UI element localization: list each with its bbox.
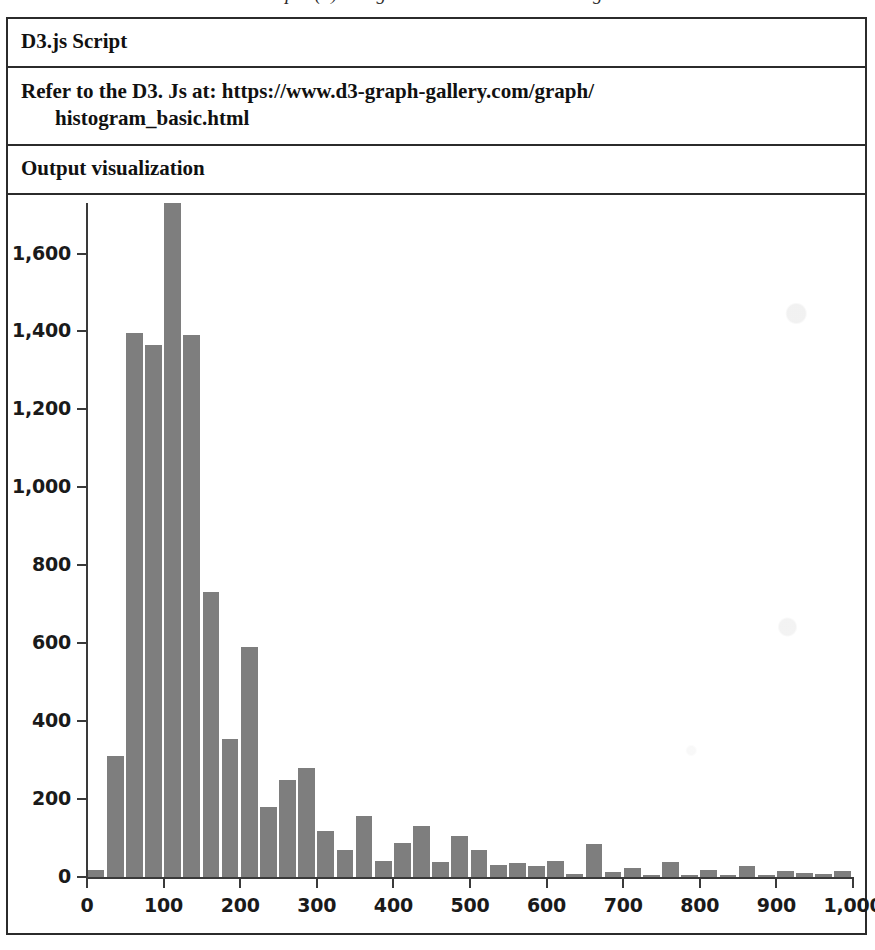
x-axis-label: 100	[144, 893, 183, 918]
histogram-chart: 02004006008001,0001,2001,4001,6000100200…	[8, 195, 865, 933]
output-heading-cell: Output visualization	[8, 146, 865, 193]
y-axis-tick	[77, 798, 86, 800]
script-title-cell: D3.js Script	[8, 19, 865, 66]
x-axis-tick	[699, 879, 701, 888]
histogram-bar	[432, 862, 449, 877]
histogram-bar	[241, 647, 258, 877]
x-axis-tick	[852, 879, 854, 888]
y-axis-label: 1,200	[12, 397, 71, 422]
x-axis-tick	[86, 879, 88, 888]
histogram-bar	[145, 345, 162, 877]
y-axis-line	[86, 203, 88, 877]
histogram-bar	[739, 866, 756, 877]
histogram-bar	[758, 875, 775, 877]
x-axis-tick	[163, 879, 165, 888]
histogram-bar	[490, 865, 507, 877]
x-axis-label: 300	[297, 893, 336, 918]
x-axis-label: 700	[604, 893, 643, 918]
x-axis-label: 200	[221, 893, 260, 918]
histogram-bar	[126, 333, 143, 876]
y-axis-label: 0	[58, 864, 71, 889]
x-axis-label: 0	[80, 893, 93, 918]
reference-url-cell: Refer to the D3. Js at: https://www.d3-g…	[8, 68, 865, 144]
histogram-bar	[183, 335, 200, 877]
reference-url-continued: histogram_basic.html	[21, 105, 852, 133]
table-row: Output visualization	[8, 146, 865, 195]
y-axis-tick	[77, 253, 86, 255]
histogram-bar	[796, 873, 813, 877]
histogram-bar	[605, 872, 622, 877]
histogram-bar	[471, 850, 488, 876]
histogram-bar	[528, 866, 545, 877]
x-axis-tick	[469, 879, 471, 888]
histogram-bar	[624, 868, 641, 877]
table-row: Refer to the D3. Js at: https://www.d3-g…	[8, 68, 865, 146]
histogram-bar	[298, 768, 315, 877]
y-axis-label: 400	[32, 708, 71, 733]
histogram-bar	[509, 863, 526, 877]
x-axis-tick	[239, 879, 241, 888]
y-axis-tick	[77, 876, 86, 878]
y-axis-tick	[77, 642, 86, 644]
y-axis-label: 800	[32, 553, 71, 578]
y-axis-label: 200	[32, 786, 71, 811]
histogram-bar	[356, 816, 373, 876]
x-axis-label: 900	[757, 893, 796, 918]
histogram-bar	[107, 756, 124, 877]
x-axis-label: 400	[374, 893, 413, 918]
histogram-bar	[88, 870, 105, 877]
histogram-bar	[720, 875, 737, 877]
histogram-bar	[222, 739, 239, 877]
histogram-bar	[681, 875, 698, 877]
histogram-bar	[279, 780, 296, 877]
y-axis-tick	[77, 330, 86, 332]
histogram-bar	[413, 826, 430, 877]
histogram-bar	[566, 874, 583, 877]
cut-off-caption-text: Example (a) using the D3 Js to build a h…	[0, 0, 875, 5]
y-axis-label: 600	[32, 631, 71, 656]
x-axis-tick	[775, 879, 777, 888]
histogram-bar	[834, 871, 851, 877]
histogram-bar	[700, 870, 717, 877]
x-axis-label: 800	[680, 893, 719, 918]
table-row-chart: 02004006008001,0001,2001,4001,6000100200…	[8, 195, 865, 933]
cut-off-caption: Example (a) using the D3 Js to build a h…	[0, 0, 875, 15]
x-axis-label: 600	[527, 893, 566, 918]
histogram-bar	[777, 871, 794, 877]
output-visualization-cell: 02004006008001,0001,2001,4001,6000100200…	[8, 195, 865, 933]
histogram-bar	[375, 861, 392, 877]
y-axis-tick	[77, 408, 86, 410]
x-axis-tick	[622, 879, 624, 888]
y-axis-tick	[77, 564, 86, 566]
y-axis-tick	[77, 486, 86, 488]
histogram-bar	[586, 844, 603, 877]
table-row: D3.js Script	[8, 19, 865, 68]
x-axis-tick	[546, 879, 548, 888]
histogram-bar	[662, 862, 679, 877]
document-table: D3.js Script Refer to the D3. Js at: htt…	[6, 17, 867, 935]
histogram-bar	[547, 861, 564, 877]
y-axis-label: 1,600	[12, 241, 71, 266]
histogram-bar	[643, 875, 660, 877]
histogram-bar	[260, 807, 277, 877]
x-axis-tick	[392, 879, 394, 888]
histogram-bar	[164, 203, 181, 877]
histogram-bar	[203, 592, 220, 876]
x-axis-tick	[316, 879, 318, 888]
histogram-bar	[317, 831, 334, 877]
histogram-bar	[451, 836, 468, 877]
x-axis-label: 1,000	[823, 893, 875, 918]
y-axis-label: 1,400	[12, 319, 71, 344]
y-axis-label: 1,000	[12, 475, 71, 500]
reference-url-text: Refer to the D3. Js at: https://www.d3-g…	[21, 79, 594, 103]
histogram-bar	[815, 874, 832, 877]
histogram-bar	[337, 850, 354, 876]
histogram-bar	[394, 843, 411, 877]
x-axis-label: 500	[450, 893, 489, 918]
y-axis-tick	[77, 720, 86, 722]
